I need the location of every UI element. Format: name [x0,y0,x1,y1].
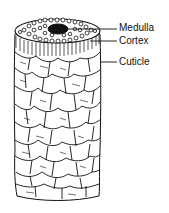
cuticle-scales [15,52,100,199]
hair-shaft-illustration [14,18,101,201]
medulla-label: Medulla [119,23,154,33]
cortex-label: Cortex [119,36,148,46]
cuticle-label: Cuticle [119,57,150,67]
